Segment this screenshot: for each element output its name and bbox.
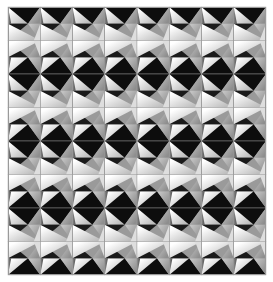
- pattern-artboard: [0, 0, 273, 282]
- tessellation-canvas: [0, 0, 273, 282]
